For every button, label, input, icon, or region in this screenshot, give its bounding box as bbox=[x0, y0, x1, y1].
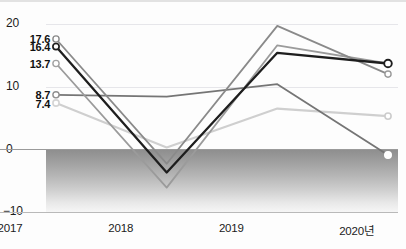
axis-bottom-line bbox=[0, 212, 398, 213]
marker-start-nbim bbox=[53, 60, 59, 66]
start-value-label-nbim: 13.7 bbox=[30, 58, 50, 70]
marker-end-future-fund bbox=[385, 152, 392, 159]
bottom-divider bbox=[0, 1, 406, 2]
x-tick-label-2020: 2020년 bbox=[339, 222, 375, 238]
start-value-label-hkma: 7.4 bbox=[36, 98, 50, 110]
series-line-cic bbox=[56, 26, 388, 164]
marker-end-hkma bbox=[385, 113, 391, 119]
y-tick-label-20: 20 bbox=[6, 16, 19, 30]
series-line-nbim bbox=[56, 45, 388, 187]
x-tick-label-2017: 2017 bbox=[0, 222, 22, 234]
series-line-hkma bbox=[56, 103, 388, 148]
x-tick-label-2019: 2019 bbox=[219, 222, 244, 234]
start-value-label-kic: 16.4 bbox=[30, 41, 50, 53]
plot-area: 17.6 16.4 13.7 8.7 7.4 13.7% KIC(한국) 12 … bbox=[46, 22, 398, 212]
series-lines bbox=[46, 22, 398, 212]
x-tick-label-2018: 2018 bbox=[108, 222, 133, 234]
marker-start-kic bbox=[53, 44, 59, 50]
marker-start-cic bbox=[53, 36, 59, 42]
line-chart: 20 10 0 −10 bbox=[0, 0, 406, 249]
y-tick-label-10: 10 bbox=[6, 79, 19, 93]
marker-start-hkma bbox=[53, 100, 59, 106]
marker-end-kic bbox=[384, 60, 392, 68]
marker-end-cic bbox=[385, 71, 391, 77]
marker-start-future-fund bbox=[53, 92, 59, 98]
series-line-kic bbox=[56, 47, 388, 173]
y-tick-label-neg10: −10 bbox=[3, 204, 23, 218]
